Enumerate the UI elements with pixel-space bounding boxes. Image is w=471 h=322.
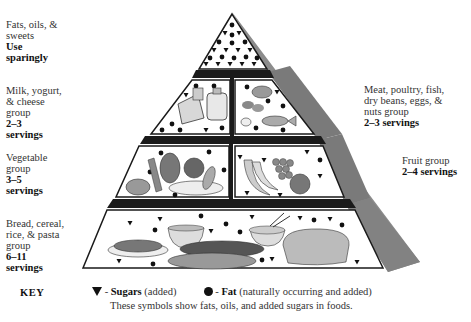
key-heading: KEY [20, 287, 44, 298]
fish-icon [262, 116, 288, 126]
triangle-down-icon [92, 287, 102, 296]
yogurt-icon [193, 88, 203, 100]
key-sugar-note: (added) [144, 286, 176, 297]
circle-dot-icon [204, 287, 213, 296]
egg-icon [241, 118, 251, 126]
food-pyramid-graphic [0, 0, 471, 322]
squash-icon [160, 153, 180, 183]
milk-jug-icon [207, 93, 227, 120]
divider-3 [107, 199, 356, 208]
tier-vegetable [116, 146, 229, 197]
apple-icon [290, 174, 310, 194]
bread-loaf-icon [283, 229, 349, 265]
key-explanation: These symbols show fats, oils, and added… [110, 300, 353, 311]
tier-bread [83, 210, 383, 269]
key-fat-note: (naturally occurring and added) [239, 286, 372, 297]
tier-milk [151, 80, 230, 134]
key-fat-label: Fat [221, 286, 236, 297]
key-legend: - Sugars (added) - Fat (naturally occurr… [92, 286, 372, 297]
key-sugar-label: Sugars [111, 286, 142, 297]
drumstick-icon [252, 86, 272, 98]
tier-fats [199, 14, 267, 69]
potato-icon [126, 179, 150, 195]
tomato-icon [184, 158, 204, 178]
